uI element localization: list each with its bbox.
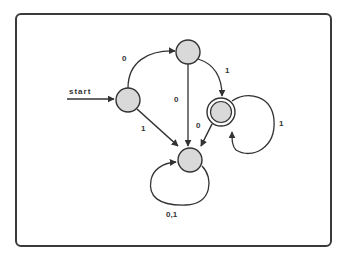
- transition-q2-q3: [201, 124, 212, 146]
- state-q2-accept: [207, 98, 235, 126]
- start-label: start: [69, 87, 91, 96]
- transition-label-q2-q3: 0: [196, 121, 201, 130]
- transition-label-q2-loop: 1: [279, 119, 284, 128]
- automaton-diagram: start 0 1 1 0 0 1 0,1: [0, 0, 350, 266]
- transition-q3-loop: [150, 162, 209, 205]
- transition-label-q0-q3: 1: [141, 124, 146, 133]
- transition-q2-loop: [232, 96, 274, 154]
- transition-label-q1-q2: 1: [225, 66, 230, 75]
- transition-label-q0-q1: 0: [122, 54, 127, 63]
- transition-label-q3-loop: 0,1: [166, 210, 178, 219]
- state-q1: [176, 40, 200, 64]
- transition-q0-q1: [128, 51, 175, 88]
- state-q0-start: [116, 88, 140, 112]
- transition-label-q1-q3: 0: [174, 95, 179, 104]
- state-q3-sink: [178, 148, 202, 172]
- transition-q1-q2: [198, 59, 222, 96]
